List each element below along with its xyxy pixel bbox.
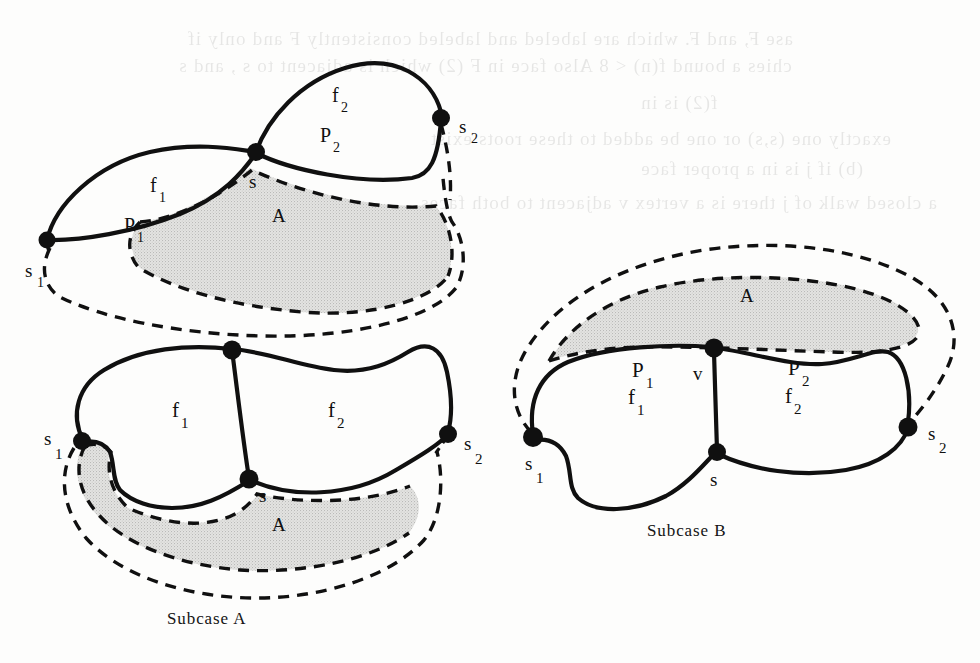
right-label-f1-base: f bbox=[628, 385, 635, 409]
right-label-s1-base: s bbox=[525, 453, 532, 474]
top-vertex-s bbox=[247, 143, 265, 161]
top-shaded-region-A bbox=[132, 168, 452, 313]
bottom-label-s1: s 1 bbox=[44, 428, 63, 462]
top-label-f1: f 1 bbox=[150, 174, 166, 205]
top-label-P2-sub: 2 bbox=[333, 140, 340, 155]
top-label-f1-base: f bbox=[150, 174, 157, 196]
right-label-f2: f 2 bbox=[785, 384, 802, 417]
right-label-f2-sub: 2 bbox=[794, 401, 802, 417]
right-vertex-v bbox=[705, 339, 724, 358]
right-outline-f2-lower bbox=[718, 428, 908, 473]
caption-subcase-a: Subcase A bbox=[167, 609, 246, 629]
top-label-s1-sub: 1 bbox=[37, 275, 44, 290]
right-vertex-s bbox=[708, 443, 726, 461]
bottom-separating-edge bbox=[232, 350, 249, 478]
right-label-s2: s 2 bbox=[928, 423, 947, 456]
bottom-label-f2: f 2 bbox=[328, 398, 345, 431]
bottom-label-s2-base: s bbox=[464, 433, 471, 454]
top-label-P1-base: P bbox=[124, 214, 135, 236]
right-outline-f1-lower bbox=[535, 440, 714, 509]
bottom-label-s1-base: s bbox=[44, 428, 51, 449]
right-label-s1-sub: 1 bbox=[536, 470, 544, 486]
bottom-label-A: A bbox=[272, 514, 286, 535]
top-label-f2-sub: 2 bbox=[341, 100, 348, 115]
right-label-P1-base: P bbox=[632, 358, 644, 382]
scanned-figure-page: ase F, and F. which are labeled and labe… bbox=[0, 0, 980, 663]
top-label-f1-sub: 1 bbox=[159, 190, 166, 205]
right-label-P2-sub: 2 bbox=[802, 373, 810, 389]
top-label-f2-base: f bbox=[332, 84, 339, 106]
bottom-outline-upper bbox=[77, 347, 232, 440]
top-label-s1-base: s bbox=[25, 260, 32, 281]
bottom-vertex-s bbox=[240, 470, 259, 489]
right-diagram: s 1 s s 2 v f 1 f 2 P 1 P bbox=[514, 245, 954, 509]
right-label-s: s bbox=[710, 469, 717, 490]
top-label-P2: P 2 bbox=[320, 124, 340, 155]
bottom-outline-f1-lower bbox=[172, 480, 250, 508]
top-label-A: A bbox=[272, 205, 286, 226]
top-label-s2-sub: 2 bbox=[471, 131, 478, 146]
top-vertex-s2 bbox=[432, 109, 450, 127]
bottom-outline-f2-lower bbox=[250, 434, 448, 492]
top-label-P1-sub: 1 bbox=[137, 230, 144, 245]
bottom-left-diagram: s 1 s s 2 f 1 f 2 A bbox=[44, 341, 483, 599]
top-face-f2-upper-outline bbox=[256, 63, 441, 152]
bottom-label-f2-base: f bbox=[328, 398, 335, 422]
top-label-s2: s 2 bbox=[459, 116, 478, 146]
top-path-P2-outline bbox=[256, 120, 441, 180]
right-separating-edge bbox=[714, 352, 717, 450]
right-label-P2-base: P bbox=[788, 356, 800, 380]
bottom-label-s1-sub: 1 bbox=[55, 446, 63, 462]
right-label-P1: P 1 bbox=[632, 358, 654, 391]
right-shaded-region-A bbox=[550, 276, 918, 360]
top-label-s2-base: s bbox=[459, 116, 466, 137]
bottom-label-f1-base: f bbox=[172, 398, 179, 422]
right-path-P2-outline bbox=[716, 348, 909, 422]
caption-subcase-b: Subcase B bbox=[647, 521, 726, 541]
top-label-P2-base: P bbox=[320, 124, 331, 146]
right-label-A: A bbox=[740, 285, 754, 306]
right-vertex-s1 bbox=[523, 427, 543, 447]
top-label-s: s bbox=[249, 171, 256, 192]
top-label-s1: s 1 bbox=[25, 260, 44, 290]
bottom-label-f2-sub: 2 bbox=[337, 415, 345, 431]
right-label-s2-base: s bbox=[928, 423, 935, 444]
bottom-label-s: s bbox=[259, 485, 266, 506]
top-label-f2: f 2 bbox=[332, 84, 348, 115]
top-left-diagram: s 1 s s 2 f 1 f 2 P 1 P 2 bbox=[25, 63, 478, 336]
right-label-s1: s 1 bbox=[525, 453, 544, 486]
right-label-v: v bbox=[693, 363, 703, 384]
right-label-s2-sub: 2 bbox=[939, 440, 947, 456]
top-vertex-s1 bbox=[39, 232, 56, 249]
bottom-label-f1-sub: 1 bbox=[181, 415, 189, 431]
bottom-label-s2: s 2 bbox=[464, 433, 483, 467]
bottom-label-f1: f 1 bbox=[172, 398, 189, 431]
right-label-f1: f 1 bbox=[628, 385, 645, 418]
right-vertex-s2 bbox=[899, 418, 918, 437]
bottom-vertex-s1 bbox=[73, 432, 91, 450]
bottom-vertex-s2 bbox=[439, 425, 457, 443]
bottom-label-s2-sub: 2 bbox=[475, 451, 483, 467]
bottom-vertex-top bbox=[223, 341, 242, 360]
figure-canvas: s 1 s s 2 f 1 f 2 P 1 P 2 bbox=[0, 0, 980, 663]
right-label-f1-sub: 1 bbox=[637, 402, 645, 418]
right-label-P1-sub: 1 bbox=[646, 375, 654, 391]
right-label-f2-base: f bbox=[785, 384, 792, 408]
